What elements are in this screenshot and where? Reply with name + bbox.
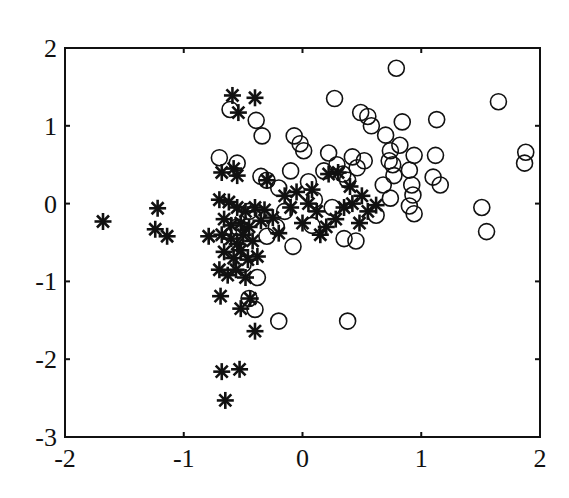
asterisk-marker [149, 200, 166, 217]
asterisk-marker [159, 228, 176, 245]
asterisk-marker [353, 187, 370, 204]
asterisk-marker [200, 228, 217, 245]
y-tick-label: -1 [35, 267, 57, 296]
asterisk-marker [351, 215, 368, 232]
y-tick-label: 2 [44, 34, 57, 63]
y-tick-label: -2 [35, 345, 57, 374]
x-tick-label: -2 [54, 444, 76, 473]
y-tick-label: 0 [44, 190, 57, 219]
asterisk-marker [327, 211, 344, 228]
y-tick-label: -3 [35, 423, 57, 452]
x-tick-label: 2 [534, 444, 547, 473]
scatter-chart: -2-1012 -3-2-1012 [0, 0, 569, 498]
asterisk-marker [247, 89, 264, 106]
plot-background [65, 48, 540, 437]
y-axis-tick-labels: -3-2-1012 [35, 34, 57, 452]
asterisk-marker [217, 392, 234, 409]
asterisk-marker [213, 164, 230, 181]
x-tick-label: 0 [296, 444, 309, 473]
asterisk-marker [252, 212, 269, 229]
asterisk-marker [225, 160, 242, 177]
x-tick-label: -1 [173, 444, 195, 473]
x-tick-label: 1 [415, 444, 428, 473]
asterisk-marker [95, 213, 112, 230]
asterisk-marker [312, 226, 329, 243]
asterisk-marker [247, 323, 264, 340]
asterisk-marker [282, 199, 299, 216]
y-tick-label: 1 [44, 112, 57, 141]
asterisk-marker [294, 215, 311, 232]
asterisk-marker [213, 363, 230, 380]
asterisk-marker [212, 288, 229, 305]
asterisk-marker [231, 361, 248, 378]
x-axis-tick-labels: -2-1012 [54, 444, 546, 473]
